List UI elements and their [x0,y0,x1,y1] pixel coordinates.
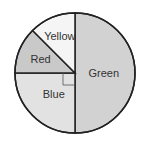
slice-label-green: Green [89,67,120,79]
slice-label-red: Red [31,53,51,65]
slice-label-yellow: Yellow [44,30,75,42]
slice-label-blue: Blue [43,88,65,100]
pie-chart: GreenBlueRedYellow [0,0,143,141]
pie-slice-blue [15,73,75,133]
